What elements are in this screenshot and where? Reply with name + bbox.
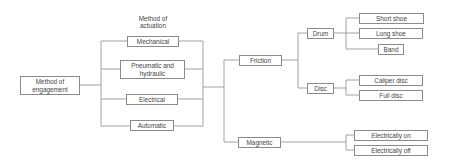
node-label: Mechanical: [137, 38, 169, 45]
method-of-actuation-header: Method of actuation: [133, 15, 173, 29]
friction-node: Friction: [239, 55, 282, 66]
node-label: Friction: [250, 57, 271, 64]
node-label: Caliper disc: [374, 77, 407, 84]
node-label: Pneumatic and hydraulic: [131, 62, 175, 76]
electrically-on-node: Electrically on: [354, 130, 428, 141]
electrically-off-node: Electrically off: [354, 145, 428, 156]
node-label: Short shoe: [376, 15, 407, 22]
node-label: Automatic: [138, 122, 166, 129]
node-label: Disc: [314, 85, 326, 92]
long-shoe-node: Long shoe: [359, 28, 423, 39]
caliper-disc-node: Caliper disc: [359, 75, 423, 86]
node-label: Long shoe: [376, 30, 406, 37]
node-label: Electrically off: [371, 147, 410, 154]
node-label: Method of engagement: [28, 78, 72, 92]
magnetic-node: Magnetic: [238, 137, 281, 148]
node-label: Drum: [313, 30, 329, 37]
short-shoe-node: Short shoe: [359, 13, 424, 24]
method-of-engagement-node: Method of engagement: [20, 76, 80, 95]
automatic-node: Automatic: [130, 120, 174, 131]
band-node: Band: [378, 44, 404, 55]
disc-node: Disc: [307, 83, 334, 94]
full-disc-node: Full disc: [359, 90, 423, 101]
node-label: Band: [384, 46, 399, 53]
node-label: Electrical: [139, 96, 165, 103]
node-label: Electrically on: [371, 132, 410, 139]
node-label: Magnetic: [247, 139, 273, 146]
pneumatic-hydraulic-node: Pneumatic and hydraulic: [120, 60, 185, 79]
electrical-node: Electrical: [126, 94, 178, 105]
drum-node: Drum: [307, 28, 334, 39]
node-label: Full disc: [379, 92, 402, 99]
mechanical-node: Mechanical: [127, 36, 179, 47]
